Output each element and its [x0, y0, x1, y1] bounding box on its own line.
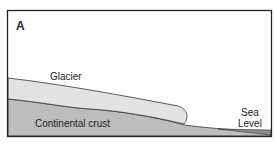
glacier-label: Glacier [50, 71, 82, 82]
sea-level-label-line1: Sea [241, 107, 259, 118]
crust-label: Continental crust [35, 118, 110, 129]
sea-level-label-line2: Level [238, 118, 262, 129]
panel-label: A [16, 21, 25, 32]
